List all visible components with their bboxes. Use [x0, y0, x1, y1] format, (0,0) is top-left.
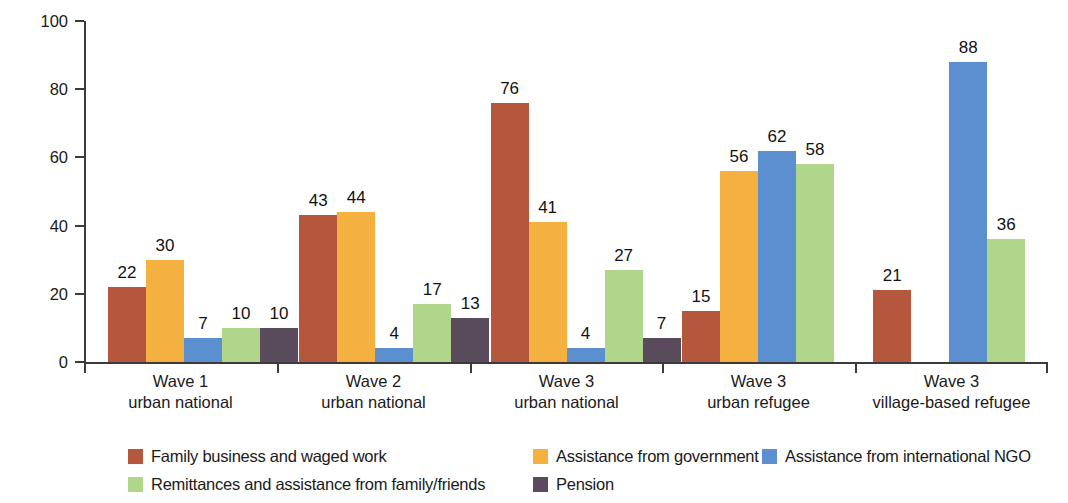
bar[interactable] — [375, 348, 413, 362]
bar-slot: 36 — [987, 21, 1025, 362]
x-axis-category-label: Wave 3village-based refugee — [855, 371, 1048, 413]
bar[interactable] — [184, 338, 222, 362]
bar-value-label: 36 — [974, 216, 1038, 233]
bar[interactable] — [567, 348, 605, 362]
bar-group: 218836 — [873, 21, 1063, 362]
y-axis-tick-label: 20 — [22, 286, 68, 302]
bar-value-label: 21 — [860, 267, 924, 284]
x-axis-category-labels: Wave 1urban nationalWave 2urban national… — [84, 371, 1048, 423]
category-label-line2: urban national — [470, 392, 663, 413]
y-axis-tick — [75, 361, 84, 363]
legend-item[interactable]: Remittances and assistance from family/f… — [128, 471, 485, 497]
category-label-line1: Wave 3 — [470, 371, 663, 392]
category-label-line2: urban refugee — [662, 392, 855, 413]
y-axis-tick-label: 0 — [22, 354, 68, 370]
category-label-line2: urban national — [277, 392, 470, 413]
plot-area: 020406080100 223071010434441713764142771… — [84, 21, 1048, 362]
bar[interactable] — [873, 290, 911, 362]
x-axis-category-label: Wave 1urban national — [84, 371, 277, 413]
legend-label: Remittances and assistance from family/f… — [151, 474, 485, 494]
y-axis-tick — [75, 225, 84, 227]
bar-group: 434441713 — [299, 21, 489, 362]
bar-slot: 41 — [529, 21, 567, 362]
bar[interactable] — [491, 103, 529, 362]
legend-swatch — [128, 477, 143, 492]
bar-slot: 22 — [108, 21, 146, 362]
bar[interactable] — [146, 260, 184, 362]
bar[interactable] — [949, 62, 987, 362]
bar[interactable] — [222, 328, 260, 362]
bar-slot: 13 — [451, 21, 489, 362]
y-axis-tick — [75, 293, 84, 295]
legend-label: Family business and waged work — [151, 446, 387, 466]
category-label-line1: Wave 1 — [84, 371, 277, 392]
bar-group: 223071010 — [108, 21, 298, 362]
bar-slot: 21 — [873, 21, 911, 362]
bar-slot: 7 — [643, 21, 681, 362]
bar-slot: 76 — [491, 21, 529, 362]
category-label-line1: Wave 3 — [855, 371, 1048, 392]
bar[interactable] — [260, 328, 298, 362]
legend-swatch — [533, 449, 548, 464]
y-axis-tick — [75, 88, 84, 90]
legend-item[interactable]: Assistance from government — [533, 443, 759, 469]
x-axis-line — [84, 362, 1048, 364]
bar-slot: 88 — [949, 21, 987, 362]
x-axis-category-label: Wave 3urban refugee — [662, 371, 855, 413]
x-axis-category-label: Wave 3urban national — [470, 371, 663, 413]
bar[interactable] — [451, 318, 489, 362]
y-axis-tick-label: 60 — [22, 149, 68, 165]
legend-item[interactable]: Pension — [533, 471, 614, 497]
y-axis-line — [84, 21, 86, 363]
legend-swatch — [762, 449, 777, 464]
bar-slot: 27 — [605, 21, 643, 362]
y-axis-tick — [75, 20, 84, 22]
bar[interactable] — [682, 311, 720, 362]
category-label-line2: urban national — [84, 392, 277, 413]
bar[interactable] — [643, 338, 681, 362]
bar-slot: 56 — [720, 21, 758, 362]
legend-item[interactable]: Assistance from international NGO — [762, 443, 1031, 469]
bar-group: 15566258 — [682, 21, 872, 362]
bar-chart-figure: Share of households (%) 020406080100 223… — [0, 0, 1068, 503]
y-axis-tick — [75, 156, 84, 158]
bar[interactable] — [720, 171, 758, 362]
legend-swatch — [533, 477, 548, 492]
x-axis-category-label: Wave 2urban national — [277, 371, 470, 413]
y-axis-tick-label: 40 — [22, 218, 68, 234]
legend-label: Pension — [556, 474, 614, 494]
bar-slot: 30 — [146, 21, 184, 362]
category-label-line2: village-based refugee — [855, 392, 1048, 413]
bar[interactable] — [987, 239, 1025, 362]
category-label-line1: Wave 3 — [662, 371, 855, 392]
y-axis-tick-labels: 020406080100 — [22, 21, 68, 362]
bar-group: 76414277 — [491, 21, 681, 362]
bar[interactable] — [108, 287, 146, 362]
bar-slot: 4 — [375, 21, 413, 362]
category-label-line1: Wave 2 — [277, 371, 470, 392]
bar-value-label: 58 — [783, 141, 847, 158]
bar-slot: 62 — [758, 21, 796, 362]
legend-swatch — [128, 449, 143, 464]
chart-legend: Family business and waged workAssistance… — [0, 443, 1068, 503]
bar-slot: 15 — [682, 21, 720, 362]
legend-label: Assistance from international NGO — [785, 446, 1031, 466]
bar[interactable] — [413, 304, 451, 362]
bar[interactable] — [796, 164, 834, 362]
bar-slot: 58 — [796, 21, 834, 362]
legend-label: Assistance from government — [556, 446, 759, 466]
bar-slot: 44 — [337, 21, 375, 362]
bar[interactable] — [758, 151, 796, 362]
y-axis-tick-label: 80 — [22, 81, 68, 97]
bar-slot: 4 — [567, 21, 605, 362]
legend-item[interactable]: Family business and waged work — [128, 443, 387, 469]
bar[interactable] — [299, 215, 337, 362]
y-axis-tick-label: 100 — [22, 13, 68, 29]
